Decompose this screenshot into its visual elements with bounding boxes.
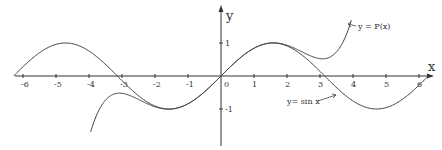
y-axis-label: y	[225, 8, 234, 23]
x-tick-label: -2	[153, 80, 161, 89]
x-tick-label: -1	[186, 80, 194, 89]
x-tick-label: 3	[318, 80, 323, 89]
x-tick-label: 5	[384, 80, 389, 89]
x-tick-label: -6	[21, 80, 29, 89]
annotation-p-of-x: y = P(x)	[357, 22, 390, 31]
annotation-sin-x: y= sin x	[286, 97, 320, 106]
y-axis-arrow-icon	[219, 5, 224, 12]
annotation-sin-arrow-icon	[318, 94, 336, 101]
x-tick-label: -4	[87, 80, 95, 89]
y-tick-label: -1	[225, 105, 233, 114]
chart: x y -6-5-4-3-2-101234561-1 y = P(x) y= s…	[0, 0, 442, 150]
x-tick-label: 2	[285, 80, 290, 89]
x-tick-label: 1	[252, 80, 257, 89]
annotations: y = P(x) y= sin x	[286, 22, 390, 106]
x-axis-label: x	[428, 59, 436, 74]
x-tick-label: -5	[54, 80, 62, 89]
x-tick-label: 4	[351, 80, 356, 89]
x-tick-label: 0	[224, 80, 229, 89]
y-tick-label: 1	[225, 39, 230, 48]
